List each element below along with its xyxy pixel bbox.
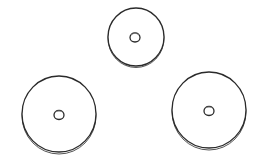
discs-illustration [0, 0, 261, 166]
disc-bottom-left [22, 76, 96, 154]
disc-bottom-right [172, 72, 246, 150]
illustration-canvas [0, 0, 261, 166]
disc-top [108, 8, 164, 68]
